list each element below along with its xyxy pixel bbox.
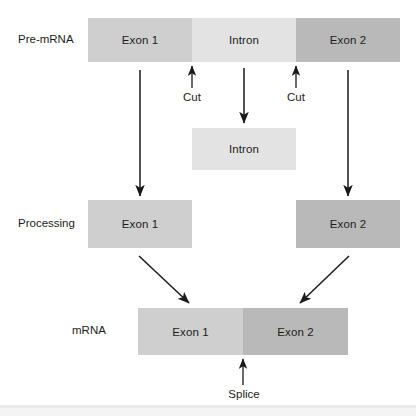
processing-exon1-box: Exon 1: [88, 200, 192, 248]
released-intron-box: Intron: [192, 128, 296, 170]
cut-right-label: Cut: [276, 91, 316, 103]
mrna-exon1-segment: Exon 1: [138, 308, 243, 355]
bottom-band: [0, 408, 416, 416]
row-label-mrna: mRNA: [72, 324, 106, 336]
row-label-pre-mrna: Pre-mRNA: [18, 33, 74, 45]
mrna-exon2-segment: Exon 2: [243, 308, 348, 355]
processing-exon2-box: Exon 2: [296, 200, 400, 248]
cut-left-label: Cut: [172, 91, 212, 103]
exon1-join-arrow: [139, 256, 189, 303]
pre-mrna-exon2-segment: Exon 2: [296, 18, 400, 62]
splicing-diagram: Pre-mRNA Exon 1 Intron Exon 2 Intron Pro…: [0, 0, 416, 416]
row-label-processing: Processing: [18, 217, 75, 229]
pre-mrna-exon1-segment: Exon 1: [88, 18, 192, 62]
splice-label: Splice: [216, 388, 272, 400]
pre-mrna-intron-segment: Intron: [192, 18, 296, 62]
exon2-join-arrow: [300, 256, 349, 303]
